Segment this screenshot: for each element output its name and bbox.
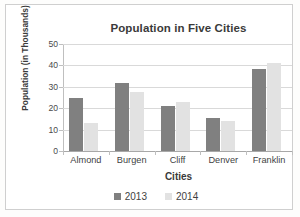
bar-denver-2013 (206, 118, 220, 151)
y-axis-tick-label: 10 (48, 125, 58, 135)
chart-legend: 20132014 (6, 191, 300, 202)
category-label-franklin: Franklin (241, 155, 297, 165)
y-axis-tick-label: 40 (48, 60, 58, 70)
bar-group (63, 44, 109, 151)
y-axis-title: Population (in Thousands) (20, 3, 30, 113)
bar-burgen-2013 (115, 83, 129, 151)
bar-denver-2014 (221, 121, 235, 151)
legend-item-2013: 2013 (114, 191, 147, 202)
bar-cliff-2014 (176, 102, 190, 151)
plot-area: 50403020100 (63, 44, 292, 151)
legend-label: 2013 (125, 191, 147, 202)
y-axis-tick-label: 20 (48, 103, 58, 113)
bar-burgen-2014 (130, 92, 144, 151)
legend-label: 2014 (176, 191, 198, 202)
bar-group (155, 44, 201, 151)
x-axis-line (63, 151, 292, 152)
legend-swatch-icon (165, 193, 172, 200)
legend-item-2014: 2014 (165, 191, 198, 202)
bar-group (246, 44, 292, 151)
bar-franklin-2014 (267, 63, 281, 151)
bar-group (109, 44, 155, 151)
bar-group (200, 44, 246, 151)
scanned-page-background: Population in Five Cities Population (in… (0, 0, 300, 217)
bar-franklin-2013 (252, 69, 266, 151)
x-axis-title: Cities (61, 171, 296, 182)
y-axis-tick-label: 50 (48, 39, 58, 49)
bar-almond-2014 (84, 123, 98, 151)
bar-almond-2013 (69, 98, 83, 152)
bar-cliff-2013 (161, 106, 175, 151)
chart-title: Population in Five Cities (61, 22, 296, 34)
chart-container: Population in Five Cities Population (in… (5, 4, 293, 210)
legend-swatch-icon (114, 193, 121, 200)
y-axis-tick-label: 30 (48, 82, 58, 92)
